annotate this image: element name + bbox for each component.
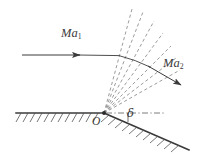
expansion-fan-figure: Ma1 Ma2 O δ: [0, 0, 197, 163]
upstream-mach-subscript: 1: [78, 32, 82, 41]
figure-canvas: [0, 0, 197, 163]
downstream-mach-subscript: 2: [180, 62, 184, 71]
upstream-flow-line: [78, 55, 119, 56]
upstream-mach-label: Ma1: [61, 27, 82, 41]
corner-point-marker: [102, 111, 106, 115]
downstream-mach-base: Ma: [163, 56, 180, 70]
figure-background: [0, 0, 197, 163]
deflection-angle-label: δ: [127, 108, 134, 120]
origin-label: O: [92, 116, 100, 128]
upstream-mach-base: Ma: [61, 26, 78, 40]
downstream-mach-label: Ma2: [163, 57, 184, 71]
